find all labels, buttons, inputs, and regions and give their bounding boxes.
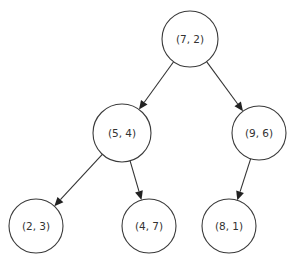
edge-n54-n47 bbox=[130, 161, 143, 200]
edge-n72-n96 bbox=[207, 62, 243, 112]
arrowhead-icon bbox=[135, 190, 143, 200]
tree-node-7-2: (7, 2) bbox=[162, 11, 218, 67]
arrowhead-icon bbox=[139, 100, 148, 110]
tree-node-5-4: (5, 4) bbox=[93, 104, 151, 162]
node-label: (5, 4) bbox=[108, 127, 136, 139]
tree-diagram: (7, 2) (5, 4) (9, 6) (2, 3) (4, 7) (8, 1… bbox=[0, 0, 294, 274]
node-label: (8, 1) bbox=[215, 220, 243, 232]
tree-node-4-7: (4, 7) bbox=[122, 199, 176, 253]
edge-line bbox=[144, 62, 173, 102]
edge-n72-n54 bbox=[139, 62, 174, 110]
edges-layer bbox=[54, 62, 250, 207]
node-label: (2, 3) bbox=[22, 220, 50, 232]
edge-n96-n81 bbox=[236, 159, 251, 201]
node-label: (4, 7) bbox=[135, 220, 163, 232]
edge-line bbox=[130, 161, 139, 192]
edge-line bbox=[207, 62, 238, 104]
tree-node-2-3: (2, 3) bbox=[9, 199, 63, 253]
tree-node-8-1: (8, 1) bbox=[202, 199, 256, 253]
node-label: (7, 2) bbox=[176, 33, 204, 45]
arrowhead-icon bbox=[235, 102, 244, 112]
tree-node-9-6: (9, 6) bbox=[232, 106, 286, 160]
node-label: (9, 6) bbox=[245, 127, 273, 139]
edge-line bbox=[240, 159, 251, 192]
nodes-layer: (7, 2) (5, 4) (9, 6) (2, 3) (4, 7) (8, 1… bbox=[9, 11, 286, 253]
edge-n54-n23 bbox=[54, 154, 102, 206]
arrowhead-icon bbox=[236, 191, 244, 201]
edge-line bbox=[60, 154, 102, 199]
